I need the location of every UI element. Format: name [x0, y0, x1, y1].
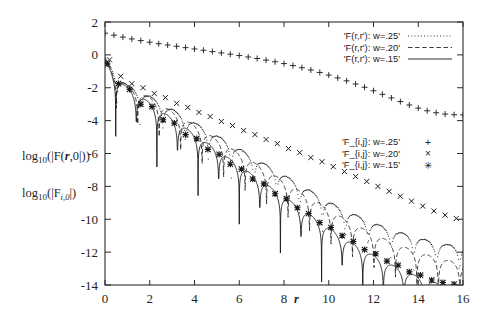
dotted-sample	[286, 176, 287, 177]
dotted-sample	[162, 122, 163, 123]
dotted-sample	[365, 226, 366, 227]
dotted-sample	[410, 240, 411, 241]
plot-background	[0, 0, 480, 327]
dotted-sample	[222, 139, 223, 140]
dotted-sample	[364, 222, 365, 223]
dotted-sample	[393, 237, 394, 238]
dotted-sample	[206, 140, 207, 141]
dotted-sample	[156, 102, 157, 103]
x-tick-label: 2	[147, 291, 154, 306]
dotted-sample	[314, 193, 315, 194]
dotted-sample	[411, 243, 412, 244]
legend-cross-marker-1: ×	[425, 148, 431, 159]
y-label-open: (|F(	[47, 149, 65, 163]
dotted-sample	[296, 188, 297, 189]
asterisk-marker	[182, 131, 188, 137]
dotted-sample	[184, 130, 185, 131]
dotted-sample	[105, 58, 106, 59]
dotted-sample	[452, 246, 453, 247]
y-tick-label: 0	[92, 47, 99, 62]
dotted-sample	[392, 241, 393, 242]
dotted-sample	[257, 164, 258, 165]
dotted-sample	[159, 108, 160, 109]
dotted-sample	[414, 251, 415, 252]
dotted-sample	[391, 247, 392, 248]
legend-line-label-2: 'F(r,r'): w=.15'	[344, 53, 400, 64]
x-tick-label: 6	[236, 291, 243, 306]
dotted-sample	[341, 214, 342, 215]
legend-line-label-1: 'F(r,r'): w=.20'	[344, 42, 400, 53]
dotted-sample	[362, 220, 363, 221]
legend-plus-marker-0: +	[425, 137, 431, 148]
dotted-sample	[211, 138, 212, 139]
dotted-sample	[316, 196, 317, 197]
dotted-sample	[318, 200, 319, 201]
dotted-sample	[252, 169, 253, 170]
dotted-sample	[229, 154, 230, 155]
dotted-sample	[344, 222, 345, 223]
asterisk-marker	[440, 279, 446, 285]
dotted-sample	[338, 209, 339, 210]
dotted-sample	[179, 116, 180, 117]
dotted-sample	[186, 130, 187, 131]
y-label-log: log	[22, 149, 39, 163]
dotted-sample	[364, 224, 365, 225]
legend-line-label-0: 'F(r,r'): w=.25'	[344, 30, 400, 41]
dotted-sample	[199, 125, 200, 126]
dotted-sample	[187, 127, 188, 128]
dotted-sample	[278, 181, 279, 182]
dotted-sample	[371, 227, 372, 228]
dotted-sample	[293, 182, 294, 183]
dotted-sample	[462, 252, 463, 253]
dotted-sample	[295, 186, 296, 187]
dotted-sample	[294, 185, 295, 186]
dotted-sample	[457, 255, 458, 256]
x-tick-label: 10	[322, 291, 335, 306]
dotted-sample	[459, 265, 460, 266]
dotted-sample	[389, 238, 390, 239]
y2-label-open: (|F	[47, 186, 61, 200]
dotted-sample	[140, 124, 141, 125]
dotted-sample	[393, 238, 394, 239]
dotted-sample	[114, 78, 115, 79]
dotted-sample	[273, 175, 274, 176]
dotted-sample	[458, 259, 459, 260]
dotted-sample	[182, 122, 183, 123]
dotted-sample	[370, 229, 371, 230]
dotted-sample	[252, 165, 253, 166]
dotted-sample	[225, 143, 226, 144]
dotted-sample	[136, 93, 137, 94]
x-tick-label: 8	[281, 291, 288, 306]
asterisk-marker	[361, 247, 367, 253]
dotted-sample	[405, 234, 406, 235]
dotted-sample	[250, 161, 251, 162]
dotted-sample	[207, 145, 208, 146]
dotted-sample	[272, 172, 273, 173]
dotted-sample	[159, 106, 160, 107]
dotted-sample	[189, 124, 190, 125]
dotted-sample	[264, 163, 265, 164]
x-tick-label: 14	[412, 291, 426, 306]
dotted-sample	[224, 141, 225, 142]
dotted-sample	[290, 178, 291, 179]
y-tick-label: 2	[92, 15, 99, 30]
dotted-sample	[412, 247, 413, 248]
dotted-sample	[246, 154, 247, 155]
dotted-sample	[383, 228, 384, 229]
dotted-sample	[201, 127, 202, 128]
dotted-sample	[343, 218, 344, 219]
asterisk-marker	[339, 233, 345, 239]
y-tick-label: -4	[87, 113, 98, 128]
dotted-sample	[363, 221, 364, 222]
dotted-sample	[416, 244, 417, 245]
dotted-sample	[344, 228, 345, 229]
dotted-sample	[395, 235, 396, 236]
dotted-sample	[432, 246, 433, 247]
dotted-sample	[324, 209, 325, 210]
dotted-sample	[345, 234, 346, 235]
dotted-sample	[417, 242, 418, 243]
dotted-sample	[156, 101, 157, 102]
dotted-sample	[205, 134, 206, 135]
dotted-sample	[415, 247, 416, 248]
dotted-sample	[143, 97, 144, 98]
